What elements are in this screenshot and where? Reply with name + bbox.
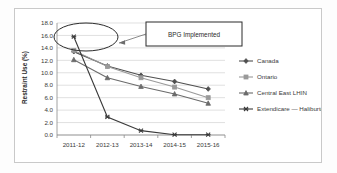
data-point-marker — [172, 79, 176, 84]
data-point-marker — [244, 107, 249, 111]
data-point-marker — [206, 133, 211, 137]
x-tick-label: 2011-12 — [63, 141, 86, 148]
y-tick-label: 0.0 — [44, 131, 53, 138]
data-point-marker — [139, 76, 143, 80]
y-tick-label: 10.0 — [41, 69, 54, 76]
x-tick-label: 2015-16 — [197, 141, 220, 148]
x-tick-label: 2014-15 — [163, 141, 186, 148]
data-point-marker — [173, 85, 177, 89]
y-tick-label: 6.0 — [44, 94, 53, 101]
chart-frame: Restraint Use (%) 0.02.04.06.08.010.012.… — [14, 8, 322, 163]
x-tick-labels: 2011-122012-132013-142014-152015-16 — [63, 141, 220, 148]
y-axis-title: Restraint Use (%) — [21, 51, 29, 104]
y-axis-title-text: Restraint Use (%) — [21, 51, 29, 104]
y-tick-labels: 0.02.04.06.08.010.012.014.016.018.0 — [41, 19, 54, 138]
series-line — [74, 60, 208, 104]
y-tick-label: 4.0 — [44, 106, 53, 113]
chart-legend: CanadaOntarioCentral East LHINExtendicar… — [239, 57, 321, 112]
legend-label: Central East LHIN — [257, 89, 307, 96]
y-tick-label: 18.0 — [41, 19, 54, 26]
y-tick-label: 8.0 — [44, 81, 53, 88]
data-point-marker — [244, 75, 248, 79]
x-tick-marks — [57, 135, 225, 138]
x-tick-label: 2013-14 — [130, 141, 153, 148]
y-tick-label: 16.0 — [41, 32, 54, 39]
y-tick-label: 12.0 — [41, 57, 54, 64]
data-point-marker — [139, 129, 144, 133]
legend-label: Ontario — [257, 73, 278, 80]
legend-label: Extendicare — Haliburton — [257, 105, 321, 112]
x-tick-label: 2012-13 — [96, 141, 119, 148]
data-point-marker — [105, 75, 110, 79]
data-point-marker — [206, 96, 210, 100]
y-tick-label: 14.0 — [41, 44, 54, 51]
data-series-group — [71, 35, 210, 137]
legend-item: Extendicare — Haliburton — [239, 105, 321, 112]
legend-label: Canada — [257, 57, 279, 64]
data-point-marker — [244, 59, 248, 64]
chart-figure: Restraint Use (%) 0.02.04.06.08.010.012.… — [0, 0, 337, 173]
line-chart: Restraint Use (%) 0.02.04.06.08.010.012.… — [15, 9, 321, 162]
data-point-marker — [172, 133, 177, 137]
legend-item: Central East LHIN — [239, 89, 307, 96]
annotation-ellipse — [54, 23, 118, 51]
legend-item: Ontario — [239, 73, 278, 80]
data-point-marker — [72, 57, 77, 61]
annotation-label: BPG Implemented — [168, 31, 221, 39]
legend-item: Canada — [239, 57, 279, 64]
data-point-marker — [206, 87, 210, 92]
y-tick-label: 2.0 — [44, 119, 53, 126]
data-point-marker — [105, 65, 109, 69]
